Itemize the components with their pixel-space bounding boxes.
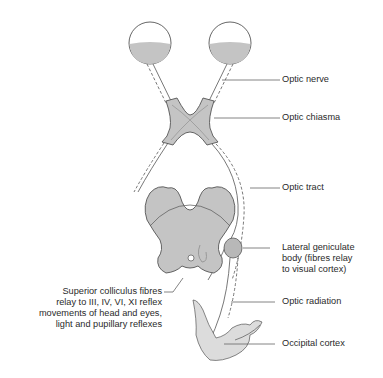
label-optic-chiasma: Optic chiasma <box>282 112 340 123</box>
occipital-cortex-shape <box>193 300 262 360</box>
label-optic-tract: Optic tract <box>282 182 324 193</box>
label-optic-radiation: Optic radiation <box>282 296 341 307</box>
label-superior-colliculus: Superior colliculus fibres relay to III,… <box>14 286 162 330</box>
optic-chiasma-shape <box>162 98 218 145</box>
lateral-geniculate-body <box>224 238 242 258</box>
label-optic-nerve: Optic nerve <box>282 74 329 85</box>
label-lateral-geniculate: Lateral geniculate body (fibres relay to… <box>282 242 355 275</box>
optic-nerves <box>147 64 233 103</box>
aqueduct <box>188 255 194 261</box>
left-eye <box>129 22 171 64</box>
label-occipital-cortex: Occipital cortex <box>282 338 345 349</box>
right-eye <box>209 22 251 64</box>
